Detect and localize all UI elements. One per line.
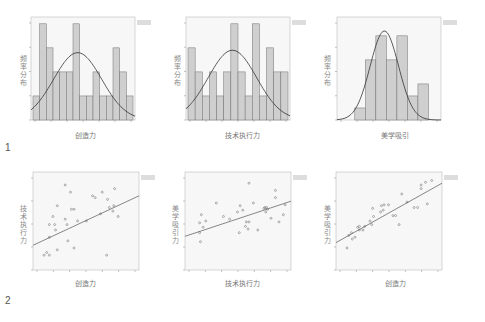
hist2-ylabel: 频率分布 [172, 55, 182, 87]
scatter-plot-1 [31, 172, 155, 272]
panel-label-1: 1 [5, 142, 11, 153]
panel-label-2: 2 [5, 295, 11, 306]
scatter3-ylabel: 美学吸引力 [322, 205, 332, 245]
hist3-xlabel: 美学吸引 [345, 130, 445, 140]
scatter-plot-2 [183, 172, 307, 272]
hist2-xlabel: 技术执行力 [192, 130, 292, 140]
scatter-plot-3 [334, 172, 458, 272]
hist3-ylabel: 频率分布 [322, 55, 332, 87]
scatter1-ylabel: 技术执行力 [18, 205, 28, 245]
hist1-ylabel: 频率分布 [18, 55, 28, 87]
histogram-1 [29, 17, 151, 122]
histogram-3 [335, 17, 457, 122]
figure-canvas [0, 0, 485, 322]
scatter2-ylabel: 美学吸引力 [170, 205, 180, 245]
hist1-xlabel: 创造力 [35, 130, 135, 140]
scatter3-xlabel: 创造力 [345, 278, 445, 288]
histogram-2 [184, 17, 306, 122]
scatter2-xlabel: 技术执行力 [192, 278, 292, 288]
scatter1-xlabel: 创造力 [35, 278, 135, 288]
